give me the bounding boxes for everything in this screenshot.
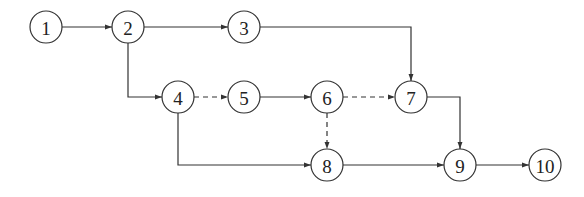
node-label: 2	[123, 18, 133, 39]
node-7: 7	[395, 81, 427, 113]
nodes-layer: 12345678910	[30, 11, 561, 181]
node-6: 6	[311, 81, 343, 113]
edges-layer	[62, 27, 529, 165]
edge-4-8	[178, 113, 311, 165]
node-9: 9	[444, 149, 476, 181]
node-label: 10	[536, 156, 555, 177]
node-1: 1	[30, 11, 62, 43]
edge-7-9	[427, 97, 460, 149]
node-label: 7	[406, 88, 416, 109]
node-label: 5	[239, 88, 249, 109]
node-label: 9	[455, 156, 465, 177]
node-4: 4	[162, 81, 194, 113]
node-10: 10	[529, 149, 561, 181]
node-label: 6	[322, 88, 332, 109]
node-label: 8	[322, 156, 332, 177]
network-diagram: 12345678910	[0, 0, 584, 197]
node-label: 1	[41, 18, 51, 39]
node-3: 3	[228, 11, 260, 43]
node-2: 2	[112, 11, 144, 43]
edge-3-7	[260, 27, 411, 81]
node-8: 8	[311, 149, 343, 181]
edge-2-4	[128, 43, 162, 97]
node-5: 5	[228, 81, 260, 113]
node-label: 4	[173, 88, 183, 109]
node-label: 3	[239, 18, 249, 39]
